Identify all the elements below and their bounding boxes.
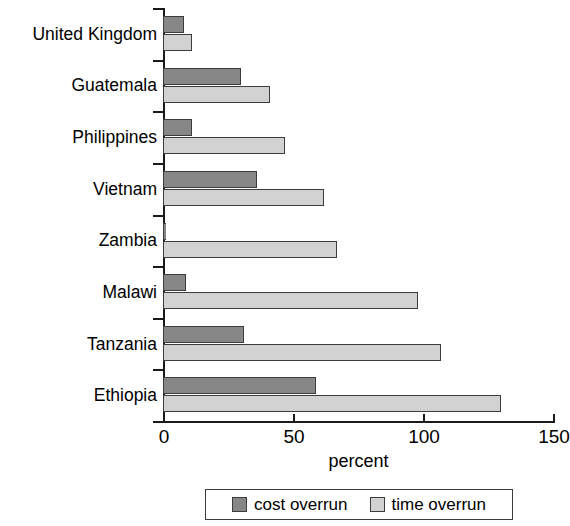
x-axis-label: 50 bbox=[283, 426, 304, 448]
x-axis-tick bbox=[553, 414, 555, 423]
legend-item: time overrun bbox=[370, 495, 486, 514]
legend-label: cost overrun bbox=[254, 495, 348, 514]
legend-swatch-icon bbox=[232, 497, 247, 512]
x-axis-label: 100 bbox=[408, 426, 440, 448]
x-axis-tick bbox=[423, 414, 425, 423]
bar-group bbox=[163, 215, 553, 267]
chart-legend: cost overruntime overrun bbox=[205, 489, 513, 520]
y-axis-label: Guatemala bbox=[5, 75, 157, 95]
bar-group bbox=[163, 266, 553, 318]
y-axis-label: Tanzania bbox=[5, 334, 157, 354]
y-axis-labels: United KingdomGuatemalaPhilippinesVietna… bbox=[0, 8, 157, 421]
bar-time-overrun bbox=[163, 241, 337, 258]
bar-time-overrun bbox=[163, 86, 270, 103]
bar-cost-overrun bbox=[163, 377, 316, 394]
x-axis-label: 150 bbox=[538, 426, 570, 448]
bar-group bbox=[163, 8, 553, 60]
bar-cost-overrun bbox=[163, 68, 241, 85]
y-axis-label: United Kingdom bbox=[5, 24, 157, 44]
bar-time-overrun bbox=[163, 395, 501, 412]
legend-swatch-icon bbox=[370, 497, 385, 512]
bar-chart: United KingdomGuatemalaPhilippinesVietna… bbox=[0, 0, 570, 526]
bar-time-overrun bbox=[163, 344, 441, 361]
bar-group bbox=[163, 111, 553, 163]
bar-time-overrun bbox=[163, 189, 324, 206]
bar-cost-overrun bbox=[163, 16, 184, 33]
y-axis-label: Ethiopia bbox=[5, 385, 157, 405]
y-axis-label: Malawi bbox=[5, 282, 157, 302]
x-axis-tick bbox=[293, 414, 295, 423]
bar-time-overrun bbox=[163, 137, 285, 154]
bar-time-overrun bbox=[163, 292, 418, 309]
bar-time-overrun bbox=[163, 34, 192, 51]
plot-area bbox=[163, 8, 553, 421]
x-axis-label: 0 bbox=[159, 426, 170, 448]
legend-item: cost overrun bbox=[232, 495, 348, 514]
bar-cost-overrun bbox=[163, 274, 186, 291]
legend-label: time overrun bbox=[392, 495, 486, 514]
bar-group bbox=[163, 60, 553, 112]
x-axis-tick bbox=[163, 414, 165, 423]
bar-cost-overrun bbox=[163, 171, 257, 188]
x-axis-line bbox=[163, 421, 554, 423]
y-axis-label: Philippines bbox=[5, 127, 157, 147]
bar-cost-overrun bbox=[163, 223, 166, 240]
bar-group bbox=[163, 163, 553, 215]
bar-group bbox=[163, 318, 553, 370]
bar-group bbox=[163, 369, 553, 421]
y-axis-label: Vietnam bbox=[5, 179, 157, 199]
x-axis-title: percent bbox=[163, 450, 554, 472]
y-axis-label: Zambia bbox=[5, 230, 157, 250]
bar-cost-overrun bbox=[163, 326, 244, 343]
bar-cost-overrun bbox=[163, 119, 192, 136]
